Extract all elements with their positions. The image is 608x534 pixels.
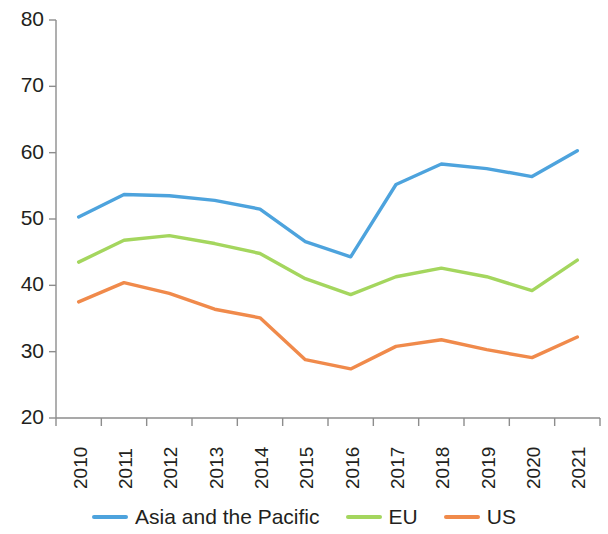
- legend-item[interactable]: Asia and the Pacific: [92, 505, 319, 529]
- legend-label: Asia and the Pacific: [135, 505, 319, 529]
- legend-item[interactable]: US: [444, 505, 516, 529]
- legend-color-swatch: [346, 515, 382, 519]
- legend-color-swatch: [92, 515, 128, 519]
- chart-legend: Asia and the PacificEUUS: [0, 500, 608, 534]
- line-chart: 80706050403020 2010201120122013201420152…: [0, 0, 608, 534]
- series-line: [79, 283, 578, 369]
- legend-color-swatch: [444, 515, 480, 519]
- series-line: [79, 151, 578, 257]
- legend-label: US: [487, 505, 516, 529]
- legend-item[interactable]: EU: [346, 505, 418, 529]
- series-line: [79, 236, 578, 295]
- plot-area: [0, 0, 608, 534]
- legend-label: EU: [389, 505, 418, 529]
